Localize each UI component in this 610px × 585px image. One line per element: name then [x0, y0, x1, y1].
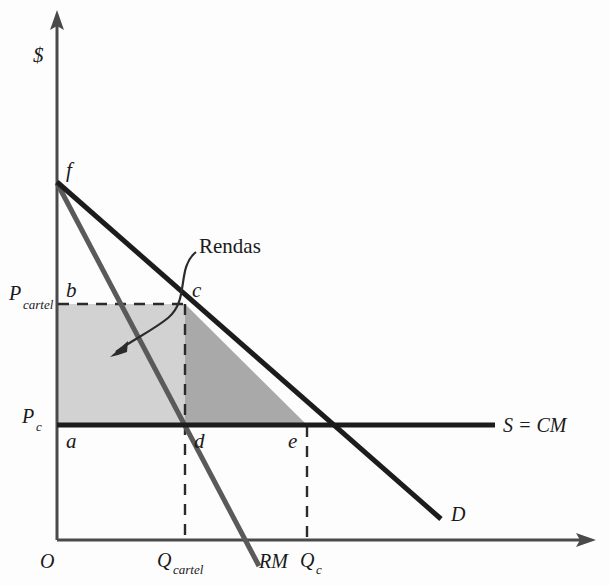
price-cartel-label: P — [8, 282, 21, 304]
demand-label: D — [450, 503, 466, 525]
point-label-e: e — [288, 429, 297, 453]
point-label-c: c — [192, 278, 202, 302]
supply-label: S = CM — [503, 414, 568, 436]
price-competitive-sublabel: c — [36, 419, 42, 434]
quantity-cartel-label: Q — [157, 549, 172, 571]
figure-svg: $ f b c a d e P cartel P c Q cartel Q c … — [0, 0, 610, 585]
economics-cartel-diagram: $ f b c a d e P cartel P c Q cartel Q c … — [0, 0, 610, 585]
deadweight-loss-region — [185, 304, 307, 425]
point-label-b: b — [66, 278, 77, 302]
price-cartel-sublabel: cartel — [23, 297, 54, 312]
rendas-annotation-label: Rendas — [199, 234, 261, 258]
quantity-competitive-sublabel: c — [316, 562, 322, 577]
quantity-competitive-label: Q — [300, 549, 315, 571]
point-label-a: a — [66, 429, 77, 453]
quantity-cartel-sublabel: cartel — [173, 562, 204, 577]
marginal-revenue-label: RM — [258, 550, 289, 572]
point-label-f: f — [66, 158, 75, 182]
price-competitive-label: P — [21, 405, 34, 427]
cartel-rents-region — [58, 304, 185, 425]
origin-label: O — [40, 550, 54, 572]
point-label-d: d — [194, 429, 205, 453]
y-axis-label: $ — [33, 43, 44, 67]
